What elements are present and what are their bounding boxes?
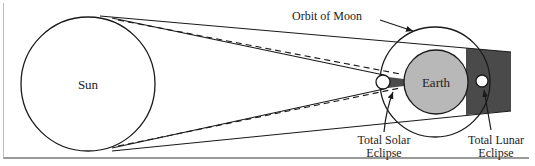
moon-lunar-eclipse-position: [476, 75, 488, 87]
total-solar-eclipse-label-line1: Total Solar: [358, 133, 411, 147]
outer-ray-bottom: [112, 111, 511, 151]
total-lunar-eclipse-label-line2: Eclipse: [478, 146, 513, 160]
moon-solar-eclipse-position: [376, 75, 390, 89]
orbit-label-arrow: [380, 20, 413, 31]
total-lunar-eclipse-label-line1: Total Lunar: [468, 133, 524, 147]
dashed-ray-top: [118, 20, 400, 74]
eclipse-diagram: Sun Earth Orbit of Moon Total Solar Ecli…: [0, 0, 535, 166]
orbit-of-moon-label: Orbit of Moon: [292, 9, 362, 23]
sun-label: Sun: [78, 77, 99, 92]
total-solar-eclipse-label-line2: Eclipse: [366, 146, 401, 160]
earth-label: Earth: [422, 75, 451, 90]
